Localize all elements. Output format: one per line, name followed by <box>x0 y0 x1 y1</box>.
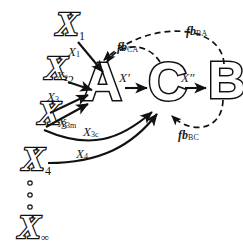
edge-label-x3c: X3c <box>83 124 99 140</box>
vertical-ellipsis-dots <box>28 181 32 209</box>
edge-label-x2: X2 <box>56 68 68 84</box>
svg-text:∞: ∞ <box>41 231 49 243</box>
svg-text:A: A <box>83 51 122 111</box>
feedback-label-fbba: fbBA <box>186 24 208 39</box>
edge-label-x4: X4 <box>76 146 88 162</box>
svg-text:2: 2 <box>68 73 74 87</box>
edge-label-x-dprime: X″ <box>181 70 194 86</box>
svg-text:X: X <box>17 208 42 244</box>
feedback-label-fbbc: fbBC <box>178 128 199 143</box>
svg-text:X: X <box>55 5 80 42</box>
svg-text:X: X <box>21 140 46 177</box>
feedback-label-fbca: fbCA <box>117 40 139 55</box>
input-node-x1: X 1 <box>55 5 85 43</box>
block-node-a: A <box>83 51 122 111</box>
svg-text:B: B <box>208 51 243 109</box>
svg-text:4: 4 <box>45 164 51 178</box>
edge-label-x3m: X3m <box>58 115 76 131</box>
block-node-b: B <box>208 51 243 109</box>
svg-text:1: 1 <box>79 29 85 43</box>
input-node-xinf: X ∞ <box>17 208 49 244</box>
input-node-x4: X 4 <box>21 140 51 178</box>
edge-label-x3: X3 <box>47 89 59 105</box>
edge-label-x-prime: X′ <box>119 70 130 86</box>
edge-label-x1: X1 <box>68 44 80 60</box>
